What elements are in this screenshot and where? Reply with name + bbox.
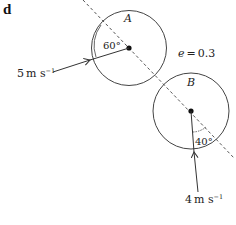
ball-a: A 60° [53,11,167,86]
ball-b-angle-arc [193,127,206,132]
part-label: d [3,1,12,17]
ball-b-velocity-arrow [194,152,198,192]
restitution-label: e=0.3 [178,47,215,60]
ball-b-speed-label: 4m s−1 [185,193,223,206]
ball-a-velocity-arrow [53,60,90,72]
ball-a-angle-label: 60° [103,40,121,51]
ball-b: B 40° [153,73,229,192]
ball-a-label: A [123,12,132,25]
ball-a-speed-label: 5m s−1 [17,67,55,80]
collision-diagram: d A 60° 5m s−1 e=0.3 B 40° 4m s−1 [0,0,236,225]
ball-b-angle-label: 40° [195,136,213,147]
ball-a-angle-arc [94,25,101,57]
ball-b-label: B [186,76,195,89]
ball-b-velocity-line [191,111,194,152]
